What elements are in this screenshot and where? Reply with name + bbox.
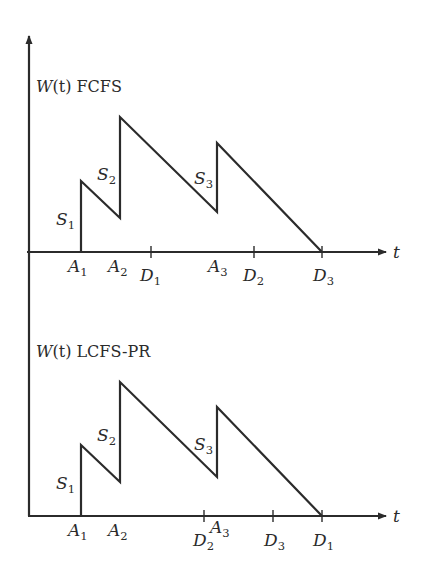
label-a1-fcfs: A1 <box>66 256 88 279</box>
label-d3-fcfs: D3 <box>312 265 334 288</box>
label-a2-lcfs-pr: A2 <box>106 520 128 543</box>
label-s3-lcfs-pr: S3 <box>194 434 213 457</box>
label-a2-fcfs: A2 <box>106 256 128 279</box>
label-d3-lcfs-pr: D3 <box>263 530 285 553</box>
x-axis-label-lcfs-pr: t <box>393 506 400 526</box>
panel-lcfs-pr: W(t) LCFS-PR t A1 A2 A3 D2 D3 D1 S1 S2 S… <box>28 342 400 553</box>
label-s2-lcfs-pr: S2 <box>97 425 116 448</box>
label-d1-lcfs-pr: D1 <box>312 530 334 553</box>
label-d1-fcfs: D1 <box>139 265 161 288</box>
label-d2-fcfs: D2 <box>242 265 264 288</box>
panel-fcfs: W(t) FCFS t A1 A2 A3 D1 D2 D3 S1 S2 S3 <box>27 77 400 288</box>
panel-title-fcfs: W(t) FCFS <box>36 77 122 96</box>
label-a3-lcfs-pr: A3 <box>208 517 230 540</box>
label-s2-fcfs: S2 <box>97 164 116 187</box>
label-a1-lcfs-pr: A1 <box>66 520 88 543</box>
label-s3-fcfs: S3 <box>194 168 213 191</box>
label-s1-lcfs-pr: S1 <box>56 473 75 496</box>
x-axis-label-fcfs: t <box>393 242 400 262</box>
panel-title-lcfs-pr: W(t) LCFS-PR <box>36 342 151 361</box>
label-s1-fcfs: S1 <box>56 209 75 232</box>
workload-diagram: W(t) FCFS t A1 A2 A3 D1 D2 D3 S1 S2 S3 W… <box>0 0 422 580</box>
label-a3-fcfs: A3 <box>206 256 228 279</box>
